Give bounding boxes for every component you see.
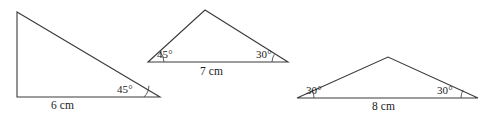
triangle-2-right-angle-arc	[272, 54, 274, 62]
triangle-3-left-angle-label: 30°	[306, 85, 322, 96]
triangle-2-right-angle-label: 30°	[256, 49, 272, 60]
triangle-2-base-label: 7 cm	[200, 66, 223, 78]
triangle-1-base-label: 6 cm	[51, 100, 74, 112]
triangles-figure: 6 cm 45° 45° 30° 7 cm 30° 30° 8 cm	[0, 0, 483, 118]
triangle-1-angle-label: 45°	[117, 84, 133, 95]
triangle-1-outline	[17, 12, 160, 97]
triangle-2-left-angle-label: 45°	[157, 49, 173, 60]
triangle-1-group	[17, 12, 160, 97]
triangle-3-base-label: 8 cm	[372, 101, 395, 113]
triangle-3-right-angle-arc	[461, 90, 463, 98]
triangle-3-right-angle-label: 30°	[437, 85, 453, 96]
